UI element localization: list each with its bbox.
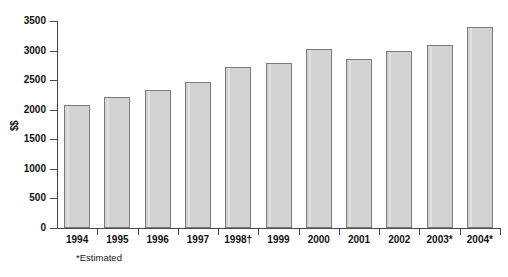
y-tick-mark <box>50 169 57 170</box>
bar-highlight <box>389 52 391 227</box>
bar-highlight <box>269 64 271 227</box>
x-tick-label-2003: 2003* <box>419 233 459 246</box>
bar-highlight <box>430 46 432 227</box>
footnote-estimated: *Estimated <box>76 252 122 264</box>
y-tick-label: 500 <box>0 191 46 204</box>
y-tick-mark <box>50 51 57 52</box>
y-tick-label: 1000 <box>0 162 46 175</box>
plot-area <box>57 21 500 228</box>
bar-1996[interactable] <box>145 90 171 228</box>
y-tick-mark <box>50 198 57 199</box>
x-tick-label-1995: 1995 <box>97 233 137 246</box>
x-tick-label-1998: 1998† <box>218 233 258 246</box>
bar-highlight <box>67 106 69 227</box>
x-tick-label-1994: 1994 <box>57 233 97 246</box>
y-tick-label: 3000 <box>0 44 46 57</box>
y-tick-label: 2500 <box>0 73 46 86</box>
x-tick-label-2002: 2002 <box>379 233 419 246</box>
bar-highlight <box>107 98 109 227</box>
bar-1994[interactable] <box>64 105 90 228</box>
bar-highlight <box>470 28 472 227</box>
bar-highlight <box>148 91 150 227</box>
bar-highlight <box>349 60 351 227</box>
bar-2000[interactable] <box>306 49 332 228</box>
bar-highlight <box>188 83 190 227</box>
y-tick-mark <box>50 110 57 111</box>
y-tick-mark <box>50 21 57 22</box>
x-tick-label-2004: 2004* <box>460 233 500 246</box>
y-tick-mark <box>50 139 57 140</box>
x-tick-label-1997: 1997 <box>178 233 218 246</box>
y-tick-label: 1500 <box>0 132 46 145</box>
bar-2001[interactable] <box>346 59 372 228</box>
bar-2002[interactable] <box>386 51 412 228</box>
bar-2003[interactable] <box>427 45 453 228</box>
x-tick-mark <box>500 229 501 235</box>
y-tick-label: 0 <box>0 221 46 234</box>
y-tick-mark <box>50 80 57 81</box>
x-tick-label-1999: 1999 <box>258 233 298 246</box>
x-tick-label-2001: 2001 <box>339 233 379 246</box>
bar-1999[interactable] <box>266 63 292 228</box>
x-tick-label-1996: 1996 <box>138 233 178 246</box>
x-axis-line <box>57 228 501 229</box>
y-tick-mark <box>50 228 57 229</box>
y-tick-label: 3500 <box>0 14 46 27</box>
bar-1998[interactable] <box>225 67 251 228</box>
bar-1995[interactable] <box>104 97 130 228</box>
bar-highlight <box>228 68 230 227</box>
bar-2004[interactable] <box>467 27 493 228</box>
y-tick-label: 2000 <box>0 103 46 116</box>
bar-chart: $$ 0500100015002000250030003500 19941995… <box>0 0 508 277</box>
bar-1997[interactable] <box>185 82 211 228</box>
bar-highlight <box>309 50 311 227</box>
x-tick-label-2000: 2000 <box>299 233 339 246</box>
